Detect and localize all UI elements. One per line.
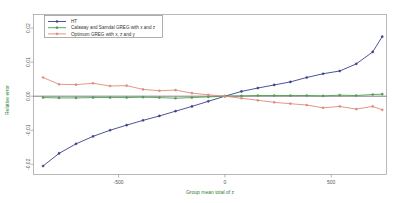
data-point — [174, 97, 176, 99]
y-tick-label: -0.02 — [25, 158, 31, 170]
x-tick-label: -500 — [114, 179, 124, 185]
data-point — [372, 93, 374, 95]
data-point — [109, 129, 111, 131]
data-point — [240, 97, 242, 99]
data-point — [158, 115, 160, 117]
data-point — [322, 95, 324, 97]
legend-marker-2 — [56, 33, 58, 35]
data-point — [174, 89, 176, 91]
x-axis-title: Group mean total of z — [186, 189, 235, 195]
data-point — [42, 165, 44, 167]
data-point — [174, 110, 176, 112]
data-point — [158, 90, 160, 92]
data-point — [273, 101, 275, 103]
data-point — [191, 96, 193, 98]
data-point — [158, 96, 160, 98]
data-point — [355, 63, 357, 65]
series-line — [43, 37, 382, 166]
legend-label-2: Optimum GREG with x, z and y — [71, 32, 136, 37]
data-point — [224, 95, 226, 97]
series-2 — [42, 76, 383, 111]
data-point — [289, 94, 291, 96]
data-point — [75, 84, 77, 86]
data-point — [257, 99, 259, 101]
data-point — [240, 95, 242, 97]
data-point — [126, 85, 128, 87]
data-point — [126, 96, 128, 98]
y-axis-ticks: -0.02-0.010.000.010.02 — [25, 23, 34, 170]
y-tick-label: 0.00 — [25, 91, 31, 101]
data-point — [381, 93, 383, 95]
data-point — [191, 92, 193, 94]
data-point — [257, 87, 259, 89]
data-point — [372, 51, 374, 53]
data-point — [339, 70, 341, 72]
series-line — [43, 77, 382, 109]
data-point — [240, 90, 242, 92]
data-point — [92, 96, 94, 98]
data-point — [142, 119, 144, 121]
data-point — [273, 94, 275, 96]
data-point — [207, 100, 209, 102]
data-point — [381, 36, 383, 38]
plot-frame — [34, 15, 387, 175]
y-axis-title: Relative error — [4, 85, 10, 115]
data-point — [42, 76, 44, 78]
data-point — [58, 97, 60, 99]
data-point — [322, 107, 324, 109]
data-point — [142, 88, 144, 90]
series-0 — [42, 36, 383, 168]
data-point — [289, 103, 291, 105]
data-point — [109, 96, 111, 98]
data-point — [372, 105, 374, 107]
data-point — [42, 96, 44, 98]
data-point — [109, 85, 111, 87]
legend-label-1: Calaway and Sarndal GREG with x and z — [71, 25, 156, 30]
data-point — [191, 105, 193, 107]
data-point — [92, 135, 94, 137]
data-point — [75, 143, 77, 145]
legend-marker-1 — [56, 27, 58, 29]
data-series-layer — [42, 36, 383, 168]
chart-svg: -0.02-0.010.000.010.02 -5000500 Group me… — [0, 0, 405, 203]
data-point — [306, 104, 308, 106]
data-point — [355, 108, 357, 110]
data-point — [322, 73, 324, 75]
data-point — [306, 94, 308, 96]
legend-marker-0 — [56, 20, 58, 22]
data-point — [207, 94, 209, 96]
data-point — [126, 124, 128, 126]
data-point — [339, 94, 341, 96]
data-point — [306, 76, 308, 78]
y-tick-label: -0.01 — [25, 124, 31, 136]
y-tick-label: 0.02 — [25, 23, 31, 33]
data-point — [92, 82, 94, 84]
data-point — [257, 94, 259, 96]
y-tick-label: 0.01 — [25, 57, 31, 67]
x-tick-label: 500 — [327, 179, 336, 185]
chart-container: -0.02-0.010.000.010.02 -5000500 Group me… — [0, 0, 405, 203]
data-point — [355, 94, 357, 96]
data-point — [58, 152, 60, 154]
data-point — [289, 81, 291, 83]
data-point — [75, 97, 77, 99]
x-tick-label: 0 — [223, 179, 226, 185]
data-point — [142, 96, 144, 98]
data-point — [58, 83, 60, 85]
data-point — [381, 109, 383, 111]
data-point — [273, 84, 275, 86]
data-point — [339, 105, 341, 107]
legend-label-0: HT — [71, 19, 77, 24]
x-axis-ticks: -5000500 — [114, 175, 336, 186]
chart-legend: HTCalaway and Sarndal GREG with x and zO… — [45, 16, 163, 38]
